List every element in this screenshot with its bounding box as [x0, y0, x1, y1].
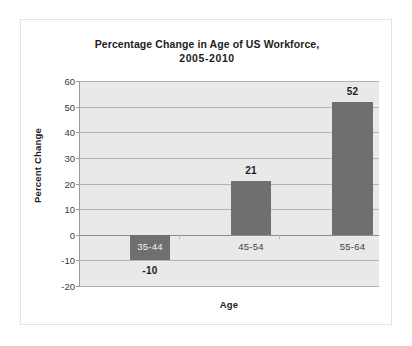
figure-frame: Percentage Change in Age of US Workforce…	[20, 19, 392, 325]
category-label-45-54: 45-54	[238, 241, 263, 252]
ytick-mark-0	[76, 235, 80, 236]
value-label-55-64: 52	[347, 86, 359, 97]
chart-title-line-1: Percentage Change in Age of US Workforce…	[95, 38, 320, 50]
y-axis-title: Percent Change	[32, 106, 43, 226]
bar-45-54[interactable]	[231, 181, 271, 235]
ytick-mark-60	[76, 81, 80, 82]
ytick-mark-30	[76, 158, 80, 159]
ytick-mark-neg20	[76, 286, 80, 287]
x-axis-title: Age	[79, 299, 379, 310]
category-label-35-44: 35-44	[137, 241, 162, 252]
ytick-label-10: 10	[64, 204, 75, 215]
ytick-label-40: 40	[64, 127, 75, 138]
x-minor-tick-1	[179, 235, 180, 239]
ytick-label-20: 20	[64, 178, 75, 189]
x-minor-tick-2	[279, 235, 280, 239]
plot-area: 60 50 40 30 20 10 0 -10 -20 -10	[79, 81, 379, 286]
chart-title-line-2: 2005-2010	[21, 51, 393, 65]
ytick-label-neg10: -10	[61, 255, 75, 266]
category-label-55-64: 55-64	[340, 241, 365, 252]
gridline-60	[80, 81, 379, 82]
ytick-mark-neg10	[76, 260, 80, 261]
gridline-0	[80, 235, 379, 236]
value-label-45-54: 21	[245, 165, 257, 176]
ytick-label-60: 60	[64, 76, 75, 87]
ytick-label-50: 50	[64, 101, 75, 112]
gridline-neg10	[80, 260, 379, 261]
ytick-label-0: 0	[70, 229, 75, 240]
ytick-mark-50	[76, 107, 80, 108]
ytick-mark-10	[76, 209, 80, 210]
ytick-label-30: 30	[64, 152, 75, 163]
bar-55-64[interactable]	[332, 102, 373, 235]
value-label-35-44: -10	[142, 265, 157, 276]
chart-title: Percentage Change in Age of US Workforce…	[21, 37, 393, 65]
ytick-mark-20	[76, 184, 80, 185]
ytick-label-neg20: -20	[61, 281, 75, 292]
ytick-mark-40	[76, 132, 80, 133]
gridline-neg20	[80, 286, 379, 287]
